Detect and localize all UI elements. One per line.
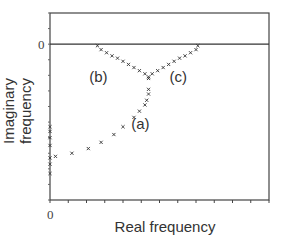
branch-label-c: (c) [170, 68, 188, 85]
x-marker [105, 51, 108, 54]
x-marker [162, 66, 165, 69]
x-marker [143, 103, 146, 106]
x-marker [116, 57, 119, 60]
x-marker [189, 51, 192, 54]
x-marker [110, 54, 113, 57]
x-marker [138, 110, 141, 113]
x-marker [100, 48, 103, 51]
data-markers [48, 44, 199, 175]
x-marker [100, 141, 103, 144]
x-marker [121, 60, 124, 63]
x-marker [147, 92, 150, 95]
branch-label-a: (a) [131, 115, 149, 132]
x-marker [178, 57, 181, 60]
x-marker [173, 60, 176, 63]
x-tick-zero: 0 [47, 207, 54, 223]
axis-ticks [48, 13, 269, 203]
x-marker [183, 54, 186, 57]
x-marker [112, 133, 115, 136]
x-marker [145, 99, 148, 102]
x-marker [194, 48, 197, 51]
plot-frame [50, 13, 269, 200]
x-marker [151, 72, 154, 75]
x-marker [143, 72, 146, 75]
x-marker [121, 125, 124, 128]
x-marker [138, 69, 141, 72]
y-tick-zero: 0 [38, 37, 45, 53]
x-marker [87, 147, 90, 150]
branch-label-b: (b) [89, 68, 107, 85]
x-marker [167, 63, 170, 66]
x-marker [156, 69, 159, 72]
x-marker [70, 152, 73, 155]
x-axis-label: Real frequency [70, 218, 260, 235]
x-marker [147, 88, 150, 91]
x-marker [54, 155, 57, 158]
x-marker [132, 66, 135, 69]
y-axis-label: Imaginary frequency [0, 46, 34, 176]
x-marker [127, 63, 130, 66]
